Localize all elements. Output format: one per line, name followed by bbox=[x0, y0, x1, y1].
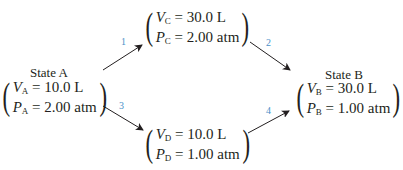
step-label-2: 2 bbox=[266, 37, 271, 48]
state-d-values: ( VD = 10.0 L PD = 1.00 atm ) bbox=[143, 126, 252, 166]
arrow-step-1 bbox=[103, 45, 142, 70]
state-a-volume: VA = 10.0 L bbox=[13, 79, 97, 99]
left-paren: ( bbox=[297, 80, 305, 120]
state-c-values: ( VC = 30.0 L PC = 2.00 atm ) bbox=[143, 9, 252, 49]
state-b-values: ( VB = 30.0 L PB = 1.00 atm ) bbox=[294, 80, 403, 120]
state-b-volume: VB = 30.0 L bbox=[307, 80, 391, 100]
step-label-1: 1 bbox=[121, 36, 126, 47]
state-c-pressure: PC = 2.00 atm bbox=[156, 29, 240, 49]
state-c-volume: VC = 30.0 L bbox=[156, 9, 240, 29]
step-label-4: 4 bbox=[266, 105, 271, 116]
left-paren: ( bbox=[146, 126, 154, 166]
right-paren: ) bbox=[242, 126, 250, 166]
state-a-values: ( VA = 10.0 L PA = 2.00 atm ) bbox=[0, 79, 109, 119]
right-paren: ) bbox=[242, 9, 250, 49]
left-paren: ( bbox=[146, 9, 154, 49]
left-paren: ( bbox=[3, 79, 11, 119]
state-d-volume: VD = 10.0 L bbox=[156, 126, 240, 146]
right-paren: ) bbox=[393, 80, 401, 120]
state-b-pressure: PB = 1.00 atm bbox=[307, 100, 391, 120]
step-label-3: 3 bbox=[119, 100, 124, 111]
right-paren: ) bbox=[99, 79, 107, 119]
state-d-pressure: PD = 1.00 atm bbox=[156, 146, 240, 166]
state-a-pressure: PA = 2.00 atm bbox=[13, 99, 97, 119]
